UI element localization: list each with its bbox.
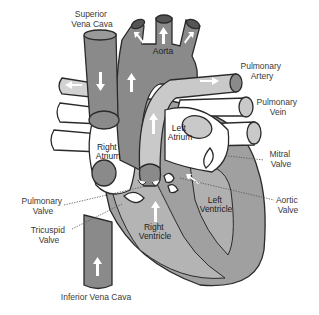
label-superior-vena-cava: Superior Vena Cava <box>71 9 113 29</box>
label-mitral-valve: Mitral Valve <box>269 149 292 169</box>
label-aortic-valve: Aortic Valve <box>276 195 300 215</box>
label-tricuspid-valve: Tricuspid Valve <box>31 225 68 245</box>
label-aorta: Aorta <box>153 46 174 56</box>
label-inferior-vena-cava: Inferior Vena Cava <box>61 292 132 302</box>
heart-diagram: Superior Vena Cava Aorta Pulmonary Arter… <box>0 0 319 315</box>
label-pulmonary-valve: Pulmonary Valve <box>21 196 64 216</box>
label-right-atrium: Right Atrium <box>96 142 121 161</box>
label-pulmonary-artery: Pulmonary Artery <box>240 61 283 81</box>
label-pulmonary-vein: Pulmonary Vein <box>256 97 299 117</box>
inferior-vena-cava <box>84 215 112 289</box>
